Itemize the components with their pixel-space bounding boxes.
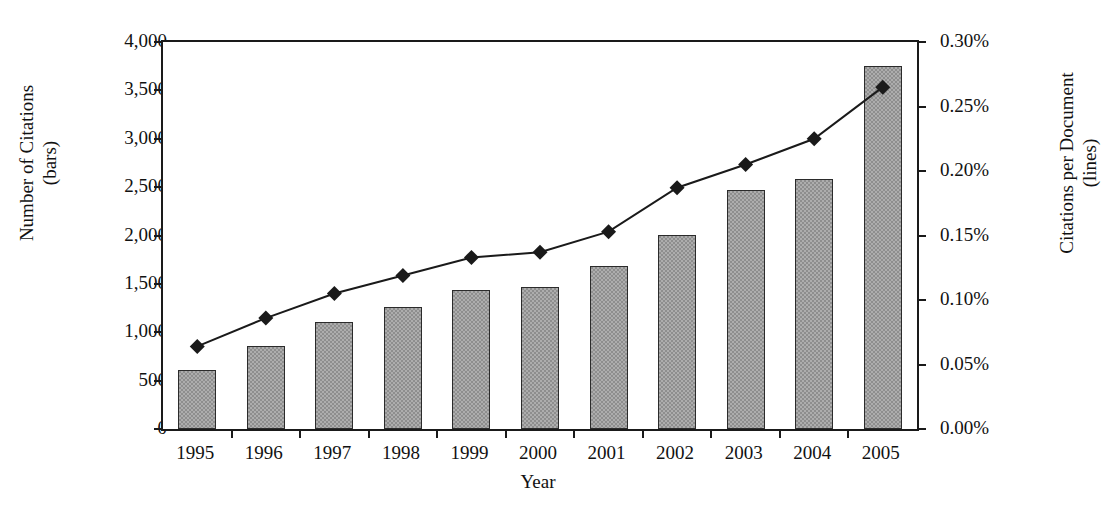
y-left-tick	[154, 331, 163, 333]
y-right-tick-label: 0.30%	[940, 31, 989, 50]
line-marker-1995	[190, 339, 205, 354]
bar-1995	[178, 370, 216, 429]
line-marker-2004	[807, 131, 822, 146]
bar-1998	[384, 307, 422, 429]
y-left-tick	[154, 380, 163, 382]
x-tick	[505, 429, 507, 438]
chart-figure: Number of Citations (bars) Citations per…	[0, 0, 1111, 513]
y-left-tick	[154, 428, 163, 430]
line-marker-1996	[258, 311, 273, 326]
x-tick	[368, 429, 370, 438]
y-right-tick	[917, 428, 926, 430]
bar-2002	[658, 235, 696, 429]
y-right-tick	[917, 235, 926, 237]
bar-1997	[315, 322, 353, 429]
bar-2003	[727, 190, 765, 429]
line-marker-1998	[395, 268, 410, 283]
x-tick	[710, 429, 712, 438]
bar-2001	[590, 266, 628, 429]
y-right-tick-label: 0.20%	[940, 160, 989, 179]
x-tick	[847, 429, 849, 438]
y-left-tick	[154, 41, 163, 43]
x-tick	[436, 429, 438, 438]
bar-2000	[521, 287, 559, 429]
bar-2005	[864, 66, 902, 429]
x-tick-label: 2005	[841, 443, 921, 462]
line-marker-2000	[533, 245, 548, 260]
y-left-tick	[154, 89, 163, 91]
y-right-tick-label: 0.10%	[940, 289, 989, 308]
y-right-tick	[917, 41, 926, 43]
x-tick	[299, 429, 301, 438]
x-tick	[231, 429, 233, 438]
bar-2004	[795, 179, 833, 429]
y-left-tick	[154, 138, 163, 140]
y-axis-left-title: Number of Citations (bars)	[15, 33, 61, 293]
line-marker-1997	[327, 286, 342, 301]
y-axis-right-title: Citations per Document (lines)	[1055, 33, 1101, 293]
bar-1996	[247, 346, 285, 429]
y-right-tick-label: 0.00%	[940, 418, 989, 437]
x-axis-title: Year	[160, 470, 916, 493]
plot-area	[161, 40, 919, 431]
line-marker-2003	[738, 157, 753, 172]
bar-1999	[452, 290, 490, 429]
line-marker-1999	[464, 250, 479, 265]
y-left-tick	[154, 235, 163, 237]
y-right-tick	[917, 170, 926, 172]
line-marker-2002	[670, 180, 685, 195]
line-marker-2001	[601, 224, 616, 239]
y-right-tick	[917, 106, 926, 108]
y-right-tick	[917, 364, 926, 366]
y-right-tick-label: 0.15%	[940, 225, 989, 244]
y-right-tick-label: 0.25%	[940, 96, 989, 115]
y-right-tick	[917, 299, 926, 301]
x-tick	[642, 429, 644, 438]
y-right-tick-label: 0.05%	[940, 354, 989, 373]
y-left-tick	[154, 283, 163, 285]
y-left-tick	[154, 186, 163, 188]
x-tick	[779, 429, 781, 438]
x-tick	[573, 429, 575, 438]
